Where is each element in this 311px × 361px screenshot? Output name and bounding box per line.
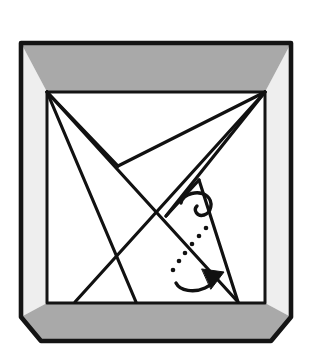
inner-panel [47, 92, 265, 303]
hidden-crease-dot-6 [171, 268, 176, 273]
origami-diagram: Origami fold step diagram Square paper m… [0, 0, 311, 361]
band-top [21, 43, 291, 92]
hidden-crease-dot-2 [197, 234, 202, 239]
band-bottom [21, 303, 291, 341]
hidden-crease-dot-1 [204, 226, 209, 231]
hidden-crease-dot-4 [183, 251, 188, 256]
hidden-crease-dot-3 [190, 242, 195, 247]
hidden-crease-dot-5 [177, 259, 182, 264]
origami-figure-canvas [0, 0, 311, 361]
